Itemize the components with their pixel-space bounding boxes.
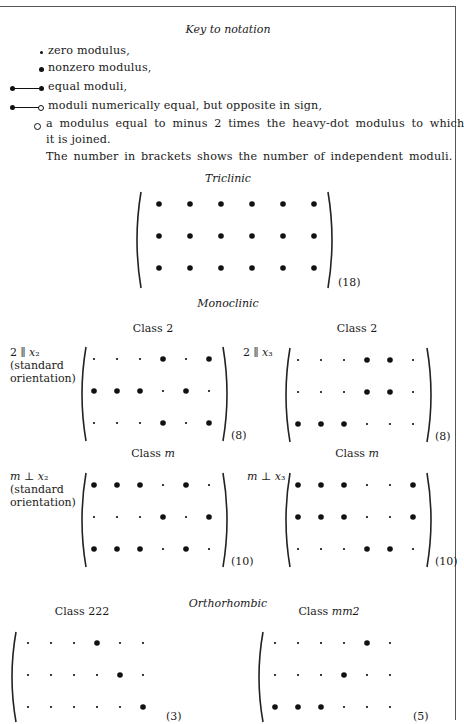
nonzero-modulus-dot	[206, 514, 212, 520]
matrix-title-symbol: 2	[370, 322, 377, 335]
matrix-title: Class 222	[8, 605, 156, 618]
zero-modulus-dot	[185, 516, 187, 518]
nonzero-modulus-dot	[114, 546, 120, 552]
nonzero-modulus-dot	[280, 265, 286, 271]
nonzero-modulus-dot	[364, 357, 370, 363]
zero-modulus-dot	[119, 642, 121, 644]
nonzero-modulus-dot	[160, 420, 166, 426]
zero-modulus-dot	[320, 642, 322, 644]
left-paren	[286, 348, 290, 442]
nonzero-modulus-dot	[318, 514, 324, 520]
nonzero-modulus-dot	[311, 201, 317, 207]
key-item-zero: zero modulus,	[48, 44, 130, 57]
nonzero-modulus-dot	[160, 356, 166, 362]
orientation-label: orientation)	[10, 496, 76, 509]
key-item-opposite: moduli numerically equal, but opposite i…	[48, 99, 322, 112]
independent-moduli-count: (10)	[231, 555, 254, 568]
matrix-title: Class mm2	[255, 605, 403, 618]
nonzero-modulus-dot	[341, 421, 347, 427]
right-paren	[427, 348, 431, 442]
zero-modulus-dot	[185, 358, 187, 360]
zero-modulus-dot	[320, 391, 322, 393]
nonzero-modulus-dot	[156, 265, 162, 271]
nonzero-modulus-dot	[156, 233, 162, 239]
nonzero-modulus-dot	[410, 482, 416, 488]
zero-modulus-dot	[119, 706, 121, 708]
zero-modulus-dot	[93, 358, 95, 360]
zero-modulus-dot	[208, 484, 210, 486]
independent-moduli-count: (8)	[435, 430, 451, 443]
label-relation: ∥	[21, 346, 30, 359]
small-dot-icon	[40, 51, 43, 54]
nonzero-modulus-dot	[387, 389, 393, 395]
matrix-title: Class m	[282, 447, 432, 460]
nonzero-modulus-dot	[218, 233, 224, 239]
label-symbol: 2	[10, 346, 21, 359]
nonzero-modulus-dot	[91, 482, 97, 488]
zero-modulus-dot	[185, 422, 187, 424]
zero-modulus-dot	[27, 706, 29, 708]
nonzero-modulus-dot	[187, 233, 193, 239]
nonzero-modulus-dot	[249, 233, 255, 239]
zero-modulus-dot	[142, 642, 144, 644]
zero-modulus-dot	[343, 359, 345, 361]
zero-modulus-dot	[343, 548, 345, 550]
nonzero-modulus-dot	[183, 388, 189, 394]
nonzero-modulus-dot	[206, 420, 212, 426]
orientation-label: m ⊥ x₂	[10, 470, 48, 483]
nonzero-modulus-dot	[387, 357, 393, 363]
zero-modulus-dot	[27, 674, 29, 676]
open-dot-icon	[38, 105, 44, 111]
nonzero-modulus-dot	[114, 388, 120, 394]
nonzero-modulus-dot	[117, 672, 123, 678]
zero-modulus-dot	[73, 674, 75, 676]
zero-modulus-dot	[343, 391, 345, 393]
zero-modulus-dot	[412, 391, 414, 393]
zero-modulus-dot	[412, 359, 414, 361]
matrix-brackets	[78, 471, 228, 569]
key-note: The number in brackets shows the number …	[46, 150, 452, 163]
zero-modulus-dot	[162, 484, 164, 486]
nonzero-modulus-dot	[187, 201, 193, 207]
nonzero-modulus-dot	[183, 482, 189, 488]
zero-modulus-dot	[274, 642, 276, 644]
frame-right-border	[455, 6, 456, 720]
nonzero-modulus-dot	[341, 514, 347, 520]
label-symbol: 2	[243, 346, 254, 359]
nonzero-modulus-dot	[140, 704, 146, 710]
zero-modulus-dot	[366, 674, 368, 676]
zero-modulus-dot	[274, 674, 276, 676]
nonzero-modulus-dot	[187, 265, 193, 271]
zero-modulus-dot	[343, 706, 345, 708]
nonzero-modulus-dot	[137, 546, 143, 552]
nonzero-modulus-dot	[160, 514, 166, 520]
nonzero-modulus-dot	[94, 640, 100, 646]
heavy-dot-icon	[39, 67, 44, 72]
nonzero-modulus-dot	[364, 640, 370, 646]
key-item-minus-two: a modulus equal to minus 2 times the hea…	[46, 117, 464, 130]
zero-modulus-dot	[366, 516, 368, 518]
zero-modulus-dot	[116, 422, 118, 424]
nonzero-modulus-dot	[364, 389, 370, 395]
zero-modulus-dot	[208, 390, 210, 392]
zero-modulus-dot	[412, 423, 414, 425]
zero-modulus-dot	[297, 548, 299, 550]
orientation-label: (standard	[10, 483, 64, 496]
nonzero-modulus-dot	[318, 704, 324, 710]
independent-moduli-count: (18)	[338, 276, 361, 289]
zero-modulus-dot	[297, 642, 299, 644]
zero-modulus-dot	[297, 674, 299, 676]
zero-modulus-dot	[389, 706, 391, 708]
left-paren	[82, 347, 86, 441]
key-item-nonzero: nonzero modulus,	[48, 61, 152, 74]
zero-modulus-dot	[389, 516, 391, 518]
label-relation: ⊥	[261, 470, 275, 483]
nonzero-modulus-dot	[218, 201, 224, 207]
zero-modulus-dot	[320, 359, 322, 361]
zero-modulus-dot	[389, 484, 391, 486]
zero-modulus-dot	[343, 642, 345, 644]
right-paren	[223, 347, 227, 441]
matrix-title-symbol: m	[368, 447, 378, 460]
right-paren	[223, 473, 227, 567]
nonzero-modulus-dot	[341, 482, 347, 488]
